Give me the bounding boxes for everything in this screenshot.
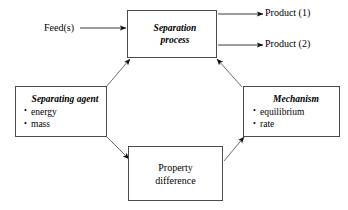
node-property-difference-title: Property difference — [129, 161, 222, 187]
node-separation-process-title: Separation process — [128, 22, 216, 46]
edge-separating-agent-to-property-difference — [106, 136, 129, 159]
node-mechanism-title: Mechanism — [253, 93, 339, 105]
bullet-item: rate — [253, 118, 339, 131]
node-property-difference-title-line2: difference — [129, 174, 222, 187]
node-separating-agent-title: Separating agent — [24, 93, 106, 105]
node-property-difference-title-line1: Property — [129, 161, 222, 174]
node-mechanism-bullets: equilibrium rate — [253, 106, 339, 131]
node-separation-process-title-line2: process — [134, 34, 216, 46]
diagram-canvas: Separation process Separating agent ener… — [0, 0, 348, 210]
node-mechanism[interactable]: Mechanism equilibrium rate — [243, 86, 340, 137]
label-product-1: Product (1) — [265, 7, 310, 19]
edge-mechanism-to-separation — [217, 59, 242, 87]
node-mechanism-content: Mechanism equilibrium rate — [244, 93, 339, 131]
node-separating-agent-bullets: energy mass — [24, 106, 106, 131]
node-separating-agent[interactable]: Separating agent energy mass — [15, 86, 107, 137]
label-feed: Feed(s) — [44, 22, 74, 34]
edge-separating-agent-to-separation — [106, 59, 130, 87]
node-separating-agent-content: Separating agent energy mass — [16, 93, 106, 131]
label-product-2: Product (2) — [265, 38, 310, 50]
node-separation-process-content: Separation process — [128, 22, 216, 46]
node-separation-process-title-line1: Separation — [134, 22, 216, 34]
bullet-item: equilibrium — [253, 106, 339, 119]
bullet-item: energy — [24, 106, 106, 119]
bullet-item: mass — [24, 118, 106, 131]
node-property-difference[interactable]: Property difference — [128, 146, 223, 201]
node-separation-process[interactable]: Separation process — [127, 10, 217, 58]
node-property-difference-content: Property difference — [129, 161, 222, 187]
edge-property-difference-to-mechanism — [224, 137, 244, 161]
